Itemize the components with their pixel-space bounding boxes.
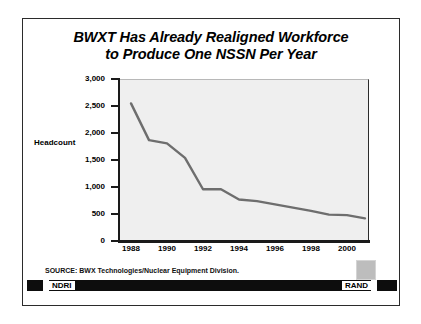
y-tick-label-1500: 1,500: [85, 155, 105, 164]
y-tick-label-3000: 3,000: [85, 74, 105, 83]
source-note: SOURCE: BWX Technologies/Nuclear Equipme…: [45, 267, 239, 274]
footer-label-ndri: NDRI: [49, 281, 75, 290]
footer-label-rand: RAND: [342, 281, 371, 290]
y-tick-500: [111, 213, 119, 215]
x-tick-label-1988: 1988: [122, 244, 140, 253]
y-tick-1000: [111, 186, 119, 188]
plot-area: [119, 79, 369, 241]
y-tick-label-2500: 2,500: [85, 101, 105, 110]
y-tick-label-500: 500: [92, 209, 105, 218]
corner-swatch-icon: [356, 260, 376, 280]
y-tick-0: [111, 240, 119, 242]
x-tick-label-1994: 1994: [230, 244, 248, 253]
footer-gap-right: [371, 280, 377, 291]
y-tick-label-2000: 2,000: [85, 128, 105, 137]
x-tick-label-1998: 1998: [302, 244, 320, 253]
x-tick-label-1996: 1996: [266, 244, 284, 253]
x-axis-line: [118, 240, 370, 243]
chart-container: Headcount 3,000 2,500 2,000 1,500 1,000 …: [23, 19, 401, 307]
y-tick-label-0: 0: [101, 236, 105, 245]
footer-bar: NDRI RAND: [27, 280, 397, 291]
slide-frame: BWXT Has Already Realigned Workforce to …: [22, 18, 400, 306]
x-tick-label-1992: 1992: [194, 244, 212, 253]
x-tick-label-1990: 1990: [158, 244, 176, 253]
y-tick-2000: [111, 132, 119, 134]
y-tick-1500: [111, 159, 119, 161]
y-axis-title: Headcount: [34, 138, 75, 147]
x-tick-label-2000: 2000: [338, 244, 356, 253]
y-tick-3000: [111, 78, 119, 80]
y-tick-label-1000: 1,000: [85, 182, 105, 191]
y-tick-2500: [111, 105, 119, 107]
